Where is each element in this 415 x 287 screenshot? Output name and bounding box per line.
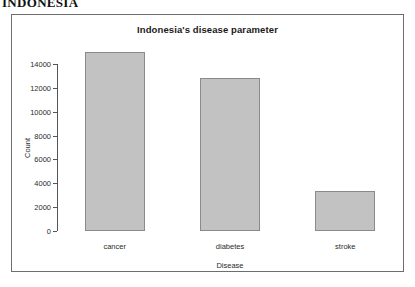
- chart-frame: Indonesia's disease parameter Count 0200…: [11, 14, 404, 272]
- y-axis-tick-label: 0: [47, 227, 51, 236]
- y-axis-tick-label: 2000: [34, 203, 51, 212]
- y-axis-tick-label: 6000: [34, 155, 51, 164]
- y-axis-tick-label: 8000: [34, 131, 51, 140]
- x-axis-tick-label: diabetes: [216, 242, 244, 251]
- y-axis-line: [57, 64, 58, 231]
- y-axis-tick-label: 14000: [30, 60, 51, 69]
- y-axis-tick-label: 4000: [34, 179, 51, 188]
- y-axis-tick-label: 10000: [30, 107, 51, 116]
- bar-stroke: [315, 191, 375, 231]
- y-axis-tick-mark: [53, 231, 57, 232]
- plot-area: Count 02000400060008000100001200014000 c…: [57, 64, 403, 231]
- y-axis-tick-label: 12000: [30, 83, 51, 92]
- y-axis-tick-mark: [53, 207, 57, 208]
- y-axis-tick-mark: [53, 112, 57, 113]
- y-axis-tick-mark: [53, 88, 57, 89]
- x-axis-tick-label: cancer: [103, 242, 126, 251]
- y-axis-tick-mark: [53, 159, 57, 160]
- document-heading: INDONESIA: [2, 0, 78, 11]
- x-axis-tick-label: stroke: [335, 242, 355, 251]
- chart-title: Indonesia's disease parameter: [12, 24, 403, 35]
- x-axis-title: Disease: [216, 261, 243, 270]
- bar-diabetes: [200, 78, 260, 231]
- y-axis-title: Count: [23, 137, 32, 157]
- y-axis-tick-mark: [53, 183, 57, 184]
- y-axis-tick-mark: [53, 136, 57, 137]
- y-axis-tick-mark: [53, 64, 57, 65]
- bar-cancer: [85, 52, 145, 231]
